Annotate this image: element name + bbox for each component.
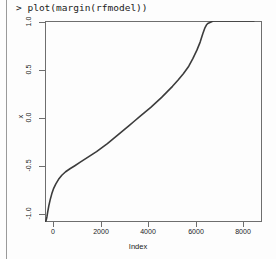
plot-area: 1.0 0.5 0.0 -0.5 -1.0 0 2000 4000 6000 8… bbox=[0, 0, 276, 259]
y-tick-label: 0.5 bbox=[25, 60, 32, 80]
y-tick-label: -0.5 bbox=[25, 156, 32, 176]
x-axis-label: Index bbox=[0, 242, 276, 251]
y-tick-label: 0.0 bbox=[25, 108, 32, 128]
margin-curve bbox=[45, 21, 262, 222]
y-tick-label: -1.0 bbox=[25, 204, 32, 224]
r-console-window: > plot(margin(rfmodel)) 1.0 0.5 0.0 -0.5… bbox=[0, 0, 276, 259]
x-tick-mark bbox=[148, 222, 149, 227]
x-tick-label: 4000 bbox=[133, 228, 163, 235]
x-tick-mark bbox=[243, 222, 244, 227]
y-tick-mark bbox=[39, 118, 45, 119]
x-tick-label: 2000 bbox=[86, 228, 116, 235]
x-tick-label: 8000 bbox=[228, 228, 258, 235]
x-tick-label: 0 bbox=[38, 228, 68, 235]
y-tick-mark bbox=[39, 166, 45, 167]
x-tick-mark bbox=[196, 222, 197, 227]
y-tick-mark bbox=[39, 70, 45, 71]
y-tick-mark bbox=[39, 22, 45, 23]
x-tick-mark bbox=[101, 222, 102, 227]
x-tick-mark bbox=[53, 222, 54, 227]
y-tick-label: 1.0 bbox=[25, 12, 32, 32]
y-axis-label: x bbox=[16, 107, 25, 127]
y-tick-mark bbox=[39, 214, 45, 215]
x-tick-label: 6000 bbox=[181, 228, 211, 235]
